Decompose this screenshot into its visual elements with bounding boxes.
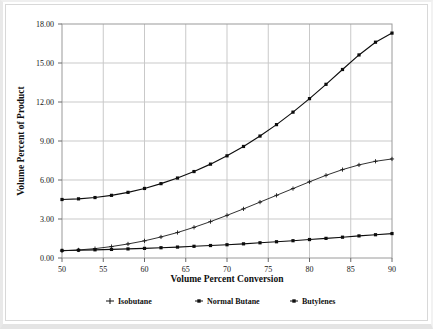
x-tick-label: 70 [223,265,231,274]
x-tick-label: 80 [306,265,314,274]
x-tick-label: 65 [182,265,190,274]
x-tick-labels: 505560657075808590 [58,265,396,274]
y-tick-label: 3.00 [40,215,54,224]
line-chart: 505560657075808590 0.003.006.009.0012.00… [0,0,433,329]
y-tick-label: 0.00 [40,254,54,263]
data-point [275,240,278,243]
data-point [357,53,360,56]
data-point [209,163,212,166]
data-point [308,238,311,241]
data-point [390,32,393,35]
data-point [324,83,327,86]
legend-marker-square-icon [197,299,200,302]
data-point [225,243,228,246]
x-tick-label: 60 [141,265,149,274]
data-point [110,248,113,251]
data-point [341,236,344,239]
y-tick-label: 12.00 [36,98,54,107]
data-point [291,111,294,114]
legend-marker-square-icon [292,299,295,302]
data-point [143,247,146,250]
data-point [159,246,162,249]
data-point [77,249,80,252]
data-point [176,245,179,248]
data-point [192,170,195,173]
data-point [60,198,63,201]
data-point [159,182,162,185]
data-point [374,233,377,236]
legend-item-isobutane[interactable]: Isobutane [106,297,152,306]
y-tick-label: 18.00 [36,20,54,29]
data-point [60,249,63,252]
data-point [275,123,278,126]
data-point [258,134,261,137]
data-point [93,248,96,251]
data-point [374,41,377,44]
legend-item-butylenes[interactable]: Butylenes [290,297,335,306]
legend-label: Butylenes [302,297,335,306]
x-tick-marks [62,258,392,262]
y-tick-marks [58,24,62,258]
data-point [242,145,245,148]
x-tick-label: 55 [99,265,107,274]
x-tick-label: 50 [58,265,66,274]
x-tick-label: 90 [388,265,396,274]
data-point [242,242,245,245]
legend-item-normal-butane[interactable]: Normal Butane [195,297,260,306]
legend-label: Normal Butane [207,297,260,306]
y-tick-label: 15.00 [36,59,54,68]
y-tick-label: 9.00 [40,137,54,146]
data-point [209,244,212,247]
data-point [176,176,179,179]
legend-label: Isobutane [118,297,152,306]
data-point [192,245,195,248]
data-point [126,247,129,250]
x-tick-label: 85 [347,265,355,274]
data-point [143,187,146,190]
data-point [357,234,360,237]
data-point [341,68,344,71]
data-point [126,191,129,194]
x-tick-label: 75 [264,265,272,274]
data-point [308,97,311,100]
data-point [291,239,294,242]
chart-figure: 505560657075808590 0.003.006.009.0012.00… [0,0,433,329]
y-tick-labels: 0.003.006.009.0012.0015.0018.00 [36,20,54,263]
x-axis-title: Volume Percent Conversion [171,274,285,284]
data-point [110,194,113,197]
y-tick-label: 6.00 [40,176,54,185]
data-point [77,197,80,200]
data-point [324,237,327,240]
data-point [258,241,261,244]
chart-legend: IsobutaneNormal ButaneButylenes [106,297,335,306]
y-axis-title: Volume Percent of Product [16,86,26,196]
data-point [225,154,228,157]
data-point [93,196,96,199]
data-point [390,232,393,235]
